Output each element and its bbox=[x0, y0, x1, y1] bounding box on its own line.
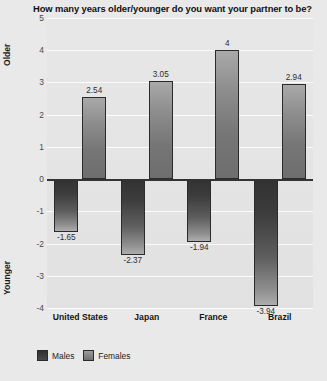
bar-japan-males bbox=[121, 179, 145, 255]
bar-value-label: 4 bbox=[204, 39, 250, 48]
category-label-japan: Japan bbox=[134, 312, 159, 322]
legend-item-males[interactable]: Males bbox=[37, 350, 74, 361]
y-axis-tick-label: -2 bbox=[22, 239, 44, 249]
y-axis-tick-label: 4 bbox=[22, 45, 44, 55]
bar-value-label: 3.05 bbox=[138, 70, 184, 79]
zero-axis-line bbox=[47, 179, 313, 181]
bar-brazil-males bbox=[254, 179, 278, 306]
y-axis-tick-labels: 543210-1-2-3-4 bbox=[18, 18, 44, 308]
chart-title: How many years older/younger do you want… bbox=[33, 3, 323, 14]
plot-area: -1.652.54-2.373.05-1.944-3.942.94 bbox=[47, 18, 313, 308]
y-axis-tick-label: 0 bbox=[22, 174, 44, 184]
y-axis-tick-label: 3 bbox=[22, 77, 44, 87]
legend-swatch-males bbox=[37, 350, 48, 361]
category-label-france: France bbox=[199, 312, 227, 322]
y-axis-tick-label: -1 bbox=[22, 206, 44, 216]
bar-united-states-females bbox=[82, 97, 106, 179]
legend-label: Males bbox=[52, 351, 74, 361]
bar-value-label: 2.94 bbox=[271, 73, 317, 82]
gridline bbox=[47, 82, 313, 83]
bar-value-label: -1.94 bbox=[176, 243, 222, 252]
legend-label: Females bbox=[98, 351, 130, 361]
bar-japan-females bbox=[149, 81, 173, 179]
legend-item-females[interactable]: Females bbox=[83, 350, 130, 361]
chart-legend: MalesFemales bbox=[37, 350, 130, 361]
gridline bbox=[47, 50, 313, 51]
chart-container: How many years older/younger do you want… bbox=[0, 0, 327, 381]
bar-united-states-males bbox=[54, 179, 78, 232]
bar-france-females bbox=[215, 50, 239, 179]
bar-value-label: -3.94 bbox=[243, 307, 289, 316]
bar-value-label: 2.54 bbox=[71, 86, 117, 95]
bar-brazil-females bbox=[282, 84, 306, 179]
y-axis-tick-label: 5 bbox=[22, 13, 44, 23]
y-axis-tick-label: -3 bbox=[22, 271, 44, 281]
gridline bbox=[47, 18, 313, 19]
bar-value-label: -1.65 bbox=[43, 233, 89, 242]
bar-value-label: -2.37 bbox=[110, 256, 156, 265]
axis-caption-older: Older bbox=[2, 33, 16, 77]
y-axis-tick-label: 2 bbox=[22, 110, 44, 120]
y-axis-tick-label: -4 bbox=[22, 303, 44, 313]
legend-swatch-females bbox=[83, 350, 94, 361]
bar-france-males bbox=[187, 179, 211, 242]
axis-caption-younger: Younger bbox=[2, 248, 16, 308]
category-label-united-states: United States bbox=[53, 312, 108, 322]
y-axis-tick-label: 1 bbox=[22, 142, 44, 152]
